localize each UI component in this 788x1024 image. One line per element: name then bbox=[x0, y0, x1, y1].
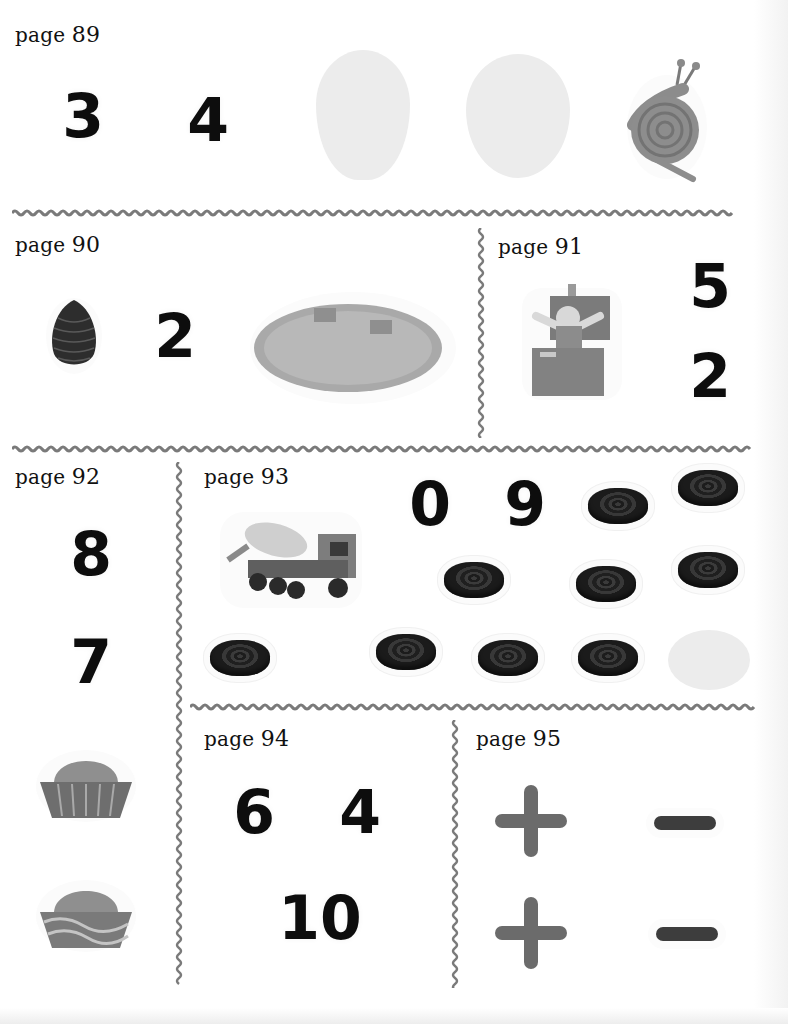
page-label-prefix: page bbox=[204, 465, 254, 489]
licorice-sticker[interactable] bbox=[678, 470, 738, 506]
page-bottom-edge bbox=[0, 1008, 788, 1024]
plus-sign-sticker[interactable] bbox=[495, 785, 567, 857]
sticker-number-2[interactable]: 2 bbox=[150, 306, 200, 366]
licorice-sticker[interactable] bbox=[478, 640, 538, 676]
page-label-number: 90 bbox=[72, 232, 100, 257]
page-label-number: 94 bbox=[261, 726, 289, 751]
sticker-number-7[interactable]: 7 bbox=[66, 632, 116, 692]
cement-mixer-truck-sticker[interactable] bbox=[218, 508, 364, 610]
sticker-number-6[interactable]: 6 bbox=[229, 782, 279, 842]
page-label-prefix: page bbox=[15, 23, 65, 47]
sticker-number-4[interactable]: 4 bbox=[183, 90, 233, 150]
wavy-divider-vertical bbox=[476, 228, 486, 438]
licorice-sticker[interactable] bbox=[588, 488, 648, 524]
sticker-number-8[interactable]: 8 bbox=[66, 524, 116, 584]
page-label-94: page 94 bbox=[204, 726, 289, 751]
minus-sign-sticker[interactable] bbox=[654, 816, 716, 830]
page-label-number: 93 bbox=[261, 464, 289, 489]
page-label-prefix: page bbox=[476, 727, 526, 751]
cupcake-sticker[interactable] bbox=[36, 748, 136, 822]
wavy-divider-vertical bbox=[450, 720, 460, 988]
plus-sign-sticker[interactable] bbox=[495, 897, 567, 969]
page-label-prefix: page bbox=[498, 235, 548, 259]
sticker-number-3[interactable]: 3 bbox=[58, 86, 108, 146]
page-label-prefix: page bbox=[204, 727, 254, 751]
licorice-sticker[interactable] bbox=[210, 640, 270, 676]
pale-circle-sticker[interactable] bbox=[668, 630, 750, 690]
licorice-sticker[interactable] bbox=[576, 566, 636, 602]
licorice-sticker[interactable] bbox=[678, 552, 738, 588]
page-label-prefix: page bbox=[15, 465, 65, 489]
cupcake-sticker[interactable] bbox=[36, 878, 136, 952]
pale-petal-sticker[interactable] bbox=[316, 50, 410, 180]
licorice-sticker[interactable] bbox=[578, 640, 638, 676]
sticker-number-0[interactable]: 0 bbox=[405, 474, 455, 534]
page-label-92: page 92 bbox=[15, 464, 100, 489]
licorice-sticker[interactable] bbox=[444, 562, 504, 598]
page-label-number: 95 bbox=[533, 726, 561, 751]
pale-petal-sticker[interactable] bbox=[466, 54, 570, 178]
page-label-number: 91 bbox=[555, 234, 583, 259]
wavy-divider-horizontal bbox=[12, 444, 756, 454]
page-label-91: page 91 bbox=[498, 234, 583, 259]
page-edge-shadow bbox=[754, 0, 788, 1024]
jack-in-the-box-sticker[interactable] bbox=[522, 282, 622, 402]
sticker-number-9[interactable]: 9 bbox=[500, 474, 550, 534]
page-label-prefix: page bbox=[15, 233, 65, 257]
minus-sign-sticker[interactable] bbox=[656, 927, 718, 941]
page-label-90: page 90 bbox=[15, 232, 100, 257]
page-label-93: page 93 bbox=[204, 464, 289, 489]
sticker-number-2[interactable]: 2 bbox=[685, 346, 735, 406]
pine-cone-sticker[interactable] bbox=[44, 296, 104, 374]
wooden-board-sticker[interactable] bbox=[248, 288, 458, 406]
wavy-divider-horizontal bbox=[190, 702, 756, 712]
snail-sticker[interactable] bbox=[625, 55, 715, 185]
sticker-number-10[interactable]: 10 bbox=[270, 888, 370, 948]
page-label-number: 92 bbox=[72, 464, 100, 489]
page-label-number: 89 bbox=[72, 22, 100, 47]
page-label-89: page 89 bbox=[15, 22, 100, 47]
wavy-divider-vertical bbox=[174, 462, 184, 990]
sticker-number-4[interactable]: 4 bbox=[335, 782, 385, 842]
page-label-95: page 95 bbox=[476, 726, 561, 751]
wavy-divider-horizontal bbox=[12, 208, 756, 218]
licorice-sticker[interactable] bbox=[376, 634, 436, 670]
sticker-number-5[interactable]: 5 bbox=[685, 256, 735, 316]
